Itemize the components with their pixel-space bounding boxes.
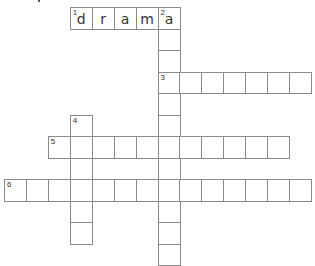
crossword-cell[interactable]: r bbox=[92, 7, 115, 30]
cell-letter: a bbox=[115, 11, 136, 27]
clue-number: 4 bbox=[73, 117, 77, 125]
crossword-cell[interactable] bbox=[158, 29, 181, 52]
crossword-cell[interactable]: 1d bbox=[70, 7, 93, 30]
crossword-cell[interactable] bbox=[70, 158, 93, 181]
crossword-cell[interactable]: a bbox=[114, 7, 137, 30]
crossword-cell[interactable]: 2a bbox=[158, 7, 181, 30]
crossword-cell[interactable]: 5 bbox=[48, 136, 71, 159]
crossword-cell[interactable] bbox=[267, 179, 290, 202]
clue-number: 3 bbox=[161, 74, 165, 82]
crossword-cell[interactable] bbox=[223, 179, 246, 202]
crossword-cell[interactable] bbox=[267, 72, 290, 95]
crossword-cell[interactable] bbox=[48, 179, 71, 202]
crossword-cell[interactable] bbox=[289, 72, 312, 95]
crossword-cell[interactable] bbox=[179, 136, 202, 159]
crossword-cell[interactable] bbox=[158, 179, 181, 202]
crossword-cell[interactable] bbox=[158, 201, 181, 224]
clue-number: 5 bbox=[51, 138, 55, 146]
crossword-cell[interactable] bbox=[158, 50, 181, 73]
crossword-cell[interactable] bbox=[245, 136, 268, 159]
crossword-cell[interactable] bbox=[114, 136, 137, 159]
cell-letter: r bbox=[93, 11, 114, 27]
crossword-cell[interactable]: 6 bbox=[4, 179, 27, 202]
crossword-cell[interactable] bbox=[92, 136, 115, 159]
crossword-cell[interactable] bbox=[179, 72, 202, 95]
crossword-cell[interactable] bbox=[201, 136, 224, 159]
crossword-cell[interactable]: 4 bbox=[70, 115, 93, 138]
crossword-cell[interactable] bbox=[158, 244, 181, 266]
crossword-cell[interactable] bbox=[158, 158, 181, 181]
crossword-cell[interactable] bbox=[70, 201, 93, 224]
crossword-cell[interactable] bbox=[158, 222, 181, 245]
crossword-cell[interactable] bbox=[92, 179, 115, 202]
crossword-cell[interactable] bbox=[70, 136, 93, 159]
crossword-cell[interactable] bbox=[136, 179, 159, 202]
crossword-cell[interactable] bbox=[245, 179, 268, 202]
cell-letter: a bbox=[159, 11, 180, 27]
crossword-cell[interactable] bbox=[245, 72, 268, 95]
clue-number: 6 bbox=[7, 181, 11, 189]
text-fragment bbox=[38, 0, 40, 2]
crossword-cell[interactable] bbox=[26, 179, 49, 202]
crossword-cell[interactable] bbox=[136, 136, 159, 159]
crossword-cell[interactable] bbox=[158, 93, 181, 116]
crossword-cell[interactable] bbox=[179, 179, 202, 202]
crossword-cell[interactable] bbox=[201, 179, 224, 202]
crossword-cell[interactable] bbox=[70, 222, 93, 245]
crossword-cell[interactable] bbox=[201, 72, 224, 95]
crossword-cell[interactable]: m bbox=[136, 7, 159, 30]
cell-letter: m bbox=[137, 11, 158, 27]
crossword-cell[interactable] bbox=[223, 136, 246, 159]
crossword-cell[interactable] bbox=[158, 136, 181, 159]
crossword-cell[interactable] bbox=[70, 179, 93, 202]
cell-letter: d bbox=[71, 11, 92, 27]
crossword-cell[interactable] bbox=[267, 136, 290, 159]
crossword-cell[interactable] bbox=[158, 115, 181, 138]
crossword-cell[interactable] bbox=[223, 72, 246, 95]
crossword-cell[interactable] bbox=[289, 179, 312, 202]
crossword-cell[interactable]: 3 bbox=[158, 72, 181, 95]
crossword-cell[interactable] bbox=[114, 179, 137, 202]
